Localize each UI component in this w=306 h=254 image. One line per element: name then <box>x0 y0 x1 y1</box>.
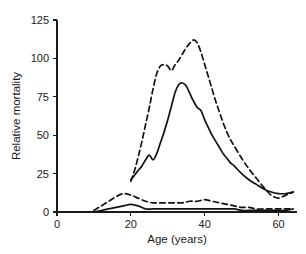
series-group <box>94 40 293 212</box>
y-tick-label: 75 <box>37 91 49 103</box>
series-line-lower-solid <box>94 204 293 212</box>
y-tick-label: 50 <box>37 129 49 141</box>
x-axis-title: Age (years) <box>147 233 207 245</box>
y-tick-label: 125 <box>31 14 49 26</box>
x-tick-label: 20 <box>125 218 137 230</box>
y-axis-title: Relative mortality <box>10 72 22 160</box>
series-line-upper-solid <box>131 83 293 194</box>
x-tick-group: 0204060 <box>54 212 285 230</box>
chart-canvas: 0255075100125 0204060 Relative mortality… <box>0 0 306 254</box>
y-tick-group: 0255075100125 <box>31 14 57 218</box>
series-line-lower-dashed <box>94 194 293 211</box>
y-tick-label: 25 <box>37 168 49 180</box>
y-axis-group: 0255075100125 <box>31 14 57 218</box>
y-tick-label: 0 <box>43 206 49 218</box>
y-tick-label: 100 <box>31 52 49 64</box>
x-tick-label: 40 <box>199 218 211 230</box>
x-tick-label: 0 <box>54 218 60 230</box>
x-tick-label: 60 <box>272 218 284 230</box>
x-axis-group: 0204060 <box>54 212 297 230</box>
mortality-chart: 0255075100125 0204060 Relative mortality… <box>0 0 306 254</box>
series-line-upper-dashed <box>131 40 293 198</box>
